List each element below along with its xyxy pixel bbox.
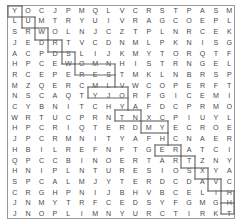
grid-cell[interactable]: R xyxy=(62,145,75,156)
grid-cell[interactable]: W xyxy=(62,59,75,70)
grid-cell[interactable]: A xyxy=(223,166,236,177)
grid-cell[interactable]: A xyxy=(182,145,195,156)
grid-cell[interactable]: M xyxy=(75,177,88,188)
grid-cell[interactable]: R xyxy=(62,81,75,92)
grid-cell[interactable]: G xyxy=(142,145,155,156)
grid-cell[interactable]: C xyxy=(182,92,195,103)
grid-cell[interactable]: P xyxy=(35,49,48,60)
grid-cell[interactable]: M xyxy=(129,70,142,81)
grid-cell[interactable]: B xyxy=(156,188,169,199)
grid-cell[interactable]: L xyxy=(102,6,115,17)
grid-cell[interactable]: E xyxy=(48,59,61,70)
grid-cell[interactable]: D xyxy=(156,177,169,188)
grid-cell[interactable]: F xyxy=(142,134,155,145)
grid-cell[interactable]: A xyxy=(48,92,61,103)
grid-cell[interactable]: P xyxy=(209,17,222,28)
grid-cell[interactable]: B xyxy=(35,102,48,113)
grid-cell[interactable]: Y xyxy=(156,124,169,135)
grid-cell[interactable]: P xyxy=(21,59,34,70)
grid-cell[interactable]: C xyxy=(8,102,21,113)
grid-cell[interactable]: H xyxy=(223,199,236,210)
grid-cell[interactable]: E xyxy=(209,27,222,38)
grid-cell[interactable]: S xyxy=(142,199,155,210)
grid-cell[interactable]: H xyxy=(8,59,21,70)
grid-cell[interactable]: T xyxy=(209,49,222,60)
grid-cell[interactable]: D xyxy=(102,38,115,49)
grid-cell[interactable]: P xyxy=(182,6,195,17)
grid-cell[interactable]: R xyxy=(196,209,209,220)
grid-cell[interactable]: N xyxy=(102,209,115,220)
grid-cell[interactable]: I xyxy=(209,188,222,199)
grid-cell[interactable]: S xyxy=(62,49,75,60)
grid-cell[interactable]: M xyxy=(88,81,101,92)
grid-cell[interactable]: A xyxy=(196,177,209,188)
grid-cell[interactable]: Q xyxy=(35,81,48,92)
grid-cell[interactable]: T xyxy=(48,17,61,28)
grid-cell[interactable]: T xyxy=(62,199,75,210)
grid-cell[interactable]: R xyxy=(169,59,182,70)
grid-cell[interactable]: N xyxy=(169,70,182,81)
grid-cell[interactable]: G xyxy=(35,188,48,199)
grid-cell[interactable]: A xyxy=(156,156,169,167)
grid-cell[interactable]: E xyxy=(62,70,75,81)
grid-cell[interactable]: N xyxy=(102,113,115,124)
grid-cell[interactable]: C xyxy=(8,188,21,199)
grid-cell[interactable]: H xyxy=(48,188,61,199)
grid-cell[interactable]: U xyxy=(102,166,115,177)
grid-cell[interactable]: G xyxy=(209,199,222,210)
grid-cell[interactable]: D xyxy=(129,199,142,210)
grid-cell[interactable]: K xyxy=(223,27,236,38)
grid-cell[interactable]: E xyxy=(102,124,115,135)
grid-cell[interactable]: S xyxy=(102,70,115,81)
grid-cell[interactable]: M xyxy=(35,17,48,28)
grid-cell[interactable]: R xyxy=(142,177,155,188)
grid-cell[interactable]: C xyxy=(156,209,169,220)
grid-cell[interactable]: T xyxy=(35,113,48,124)
grid-cell[interactable]: L xyxy=(75,49,88,60)
grid-cell[interactable]: N xyxy=(129,113,142,124)
grid-cell[interactable]: N xyxy=(88,156,101,167)
grid-cell[interactable]: I xyxy=(88,134,101,145)
grid-cell[interactable]: N xyxy=(182,38,195,49)
grid-cell[interactable]: R xyxy=(196,70,209,81)
grid-cell[interactable]: W xyxy=(8,113,21,124)
grid-cell[interactable]: L xyxy=(62,27,75,38)
grid-cell[interactable]: I xyxy=(223,145,236,156)
grid-cell[interactable]: X xyxy=(196,166,209,177)
grid-cell[interactable]: I xyxy=(156,166,169,177)
grid-cell[interactable]: J xyxy=(88,27,101,38)
grid-cell[interactable]: I xyxy=(182,209,195,220)
grid-cell[interactable]: E xyxy=(182,81,195,92)
grid-cell[interactable]: E xyxy=(196,92,209,103)
grid-cell[interactable]: L xyxy=(156,70,169,81)
grid-cell[interactable]: P xyxy=(156,38,169,49)
grid-cell[interactable]: P xyxy=(21,177,34,188)
grid-cell[interactable]: E xyxy=(115,156,128,167)
grid-cell[interactable]: I xyxy=(62,124,75,135)
grid-cell[interactable]: E xyxy=(35,70,48,81)
grid-cell[interactable]: K xyxy=(169,38,182,49)
grid-cell[interactable]: F xyxy=(209,81,222,92)
grid-cell[interactable]: N xyxy=(102,145,115,156)
grid-cell[interactable]: C xyxy=(102,27,115,38)
grid-cell[interactable]: R xyxy=(196,124,209,135)
grid-cell[interactable]: E xyxy=(209,59,222,70)
grid-cell[interactable]: Q xyxy=(75,124,88,135)
grid-cell[interactable]: D xyxy=(182,177,195,188)
grid-cell[interactable]: E xyxy=(115,199,128,210)
grid-cell[interactable]: M xyxy=(196,199,209,210)
grid-cell[interactable]: A xyxy=(129,134,142,145)
grid-cell[interactable]: G xyxy=(223,38,236,49)
grid-cell[interactable]: L xyxy=(62,177,75,188)
grid-cell[interactable]: R xyxy=(182,27,195,38)
grid-cell[interactable]: C xyxy=(223,177,236,188)
grid-cell[interactable]: F xyxy=(223,49,236,60)
grid-cell[interactable]: N xyxy=(21,199,34,210)
grid-cell[interactable]: C xyxy=(129,6,142,17)
grid-cell[interactable]: I xyxy=(129,59,142,70)
grid-cell[interactable]: R xyxy=(142,6,155,17)
grid-cell[interactable]: N xyxy=(75,188,88,199)
grid-cell[interactable]: C xyxy=(182,124,195,135)
grid-cell[interactable]: C xyxy=(88,102,101,113)
grid-cell[interactable]: J xyxy=(8,134,21,145)
